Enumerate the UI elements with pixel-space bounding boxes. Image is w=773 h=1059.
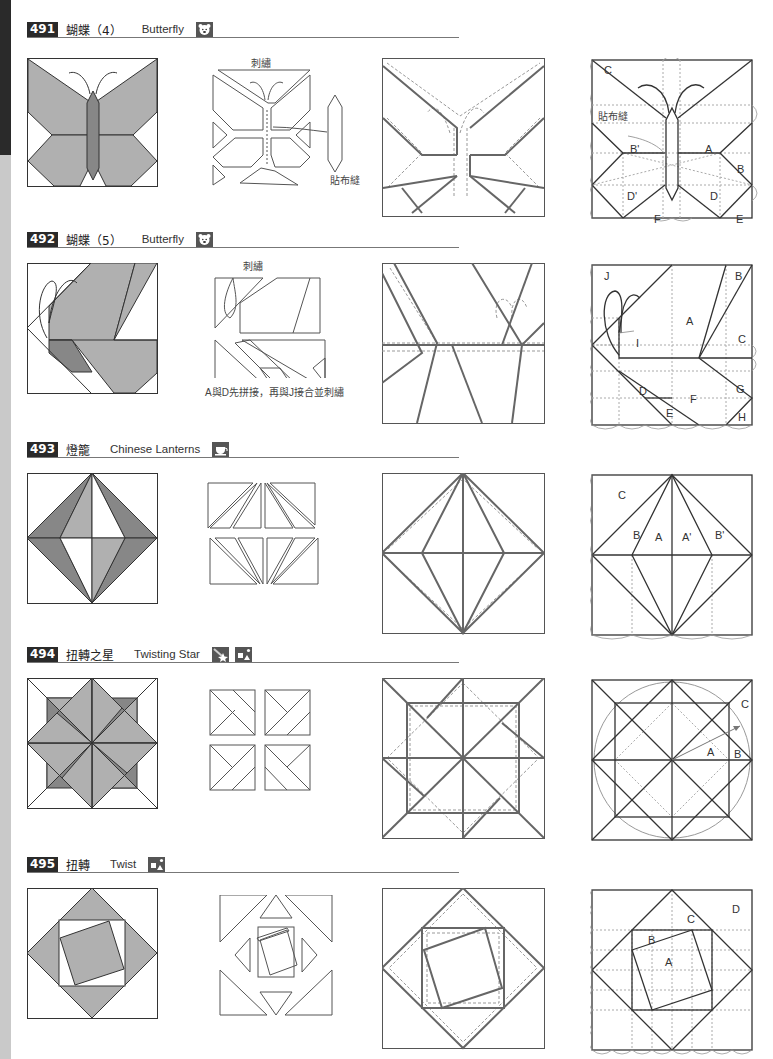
bear-icon <box>196 232 213 247</box>
piece-label: A <box>705 143 713 155</box>
pieces-diagram: 刺繡 貼布縫 <box>205 55 365 205</box>
piece-label: B <box>648 934 655 946</box>
cup-icon <box>212 442 229 457</box>
template-diagram: D C B A <box>590 888 762 1059</box>
pieces-diagram <box>205 480 325 600</box>
piece-label: C <box>618 489 626 501</box>
pattern-name-zh: 扭轉之星 <box>66 646 114 663</box>
pattern-number: 494 <box>27 647 58 662</box>
piece-label: B <box>735 270 742 282</box>
piece-label: J <box>604 270 610 282</box>
star-icon <box>212 647 229 662</box>
template-diagram: C B' A B D' D F E 貼布縫 <box>590 58 762 228</box>
applique-label: 貼布縫 <box>598 108 628 123</box>
piece-label: E <box>666 407 673 419</box>
page-edge-tab <box>0 0 11 1059</box>
applique-label: 貼布縫 <box>330 172 360 187</box>
finished-block-diagram <box>27 678 159 810</box>
piece-label: B' <box>715 529 724 541</box>
header-rule <box>27 457 459 458</box>
piece-label: C <box>738 333 746 345</box>
finished-block-diagram <box>27 888 159 1020</box>
piece-label: B <box>633 529 640 541</box>
piece-label: A <box>655 531 663 543</box>
embroidery-label: 刺繡 <box>243 258 263 273</box>
piece-label: F <box>654 213 661 225</box>
piece-label: B' <box>630 143 639 155</box>
piece-label: D <box>710 190 718 202</box>
instruction-text: A與D先拼接，再與J接合並刺繡 <box>205 384 344 399</box>
piece-label: A <box>686 315 694 327</box>
finished-block-diagram <box>27 473 159 605</box>
pattern-name-zh: 燈籠 <box>66 441 90 458</box>
pattern-name-zh: 蝴蝶（5） <box>66 231 122 248</box>
pattern-name-en: Twisting Star <box>134 648 200 660</box>
pattern-name-en: Butterfly <box>142 233 184 245</box>
piece-label: A <box>665 956 673 968</box>
shapes-icon <box>235 647 252 662</box>
cutting-diagram <box>382 473 547 638</box>
pattern-header: 491 蝴蝶（4） Butterfly <box>27 20 213 38</box>
pattern-header: 494 扭轉之星 Twisting Star <box>27 645 252 663</box>
pieces-diagram: 刺繡 A與D先拼接，再與J接合並刺繡 <box>205 258 365 378</box>
pattern-name-en: Twist <box>110 858 136 870</box>
cutting-diagram <box>382 263 547 428</box>
pattern-name-en: Butterfly <box>142 23 184 35</box>
piece-label: D <box>732 903 740 915</box>
cutting-diagram <box>382 58 547 220</box>
cutting-diagram <box>382 888 547 1053</box>
piece-label: E <box>736 213 743 225</box>
piece-label: B <box>737 163 744 175</box>
pattern-header: 493 燈籠 Chinese Lanterns <box>27 440 229 458</box>
embroidery-label: 刺繡 <box>251 55 271 70</box>
pattern-name-zh: 扭轉 <box>66 856 90 873</box>
header-rule <box>27 662 459 663</box>
pattern-number: 493 <box>27 442 58 457</box>
piece-label: F <box>690 393 697 405</box>
piece-label: A <box>707 746 715 758</box>
shapes-icon <box>148 857 165 872</box>
page-edge-tab-dark <box>0 0 11 155</box>
bear-icon <box>196 22 213 37</box>
header-rule <box>27 247 459 248</box>
header-rule <box>27 37 459 38</box>
pieces-diagram <box>205 685 325 805</box>
pattern-header: 492 蝴蝶（5） Butterfly <box>27 230 213 248</box>
piece-label: C <box>687 913 695 925</box>
pattern-name-zh: 蝴蝶（4） <box>66 21 122 38</box>
piece-label: B <box>734 748 741 760</box>
cutting-diagram <box>382 678 547 843</box>
finished-block-diagram <box>27 58 159 188</box>
header-rule <box>27 872 459 873</box>
piece-label: G <box>736 383 745 395</box>
template-diagram: J B A C I D F G E H <box>590 263 762 435</box>
template-diagram: C A B <box>590 678 762 850</box>
piece-label: I <box>636 337 639 349</box>
pattern-header: 495 扭轉 Twist <box>27 855 165 873</box>
piece-label: C <box>741 698 749 710</box>
finished-block-diagram <box>27 263 159 395</box>
template-diagram: C B A A' B' <box>590 473 762 645</box>
piece-label: H <box>738 411 746 423</box>
pattern-number: 495 <box>27 857 58 872</box>
piece-label: C <box>604 64 612 76</box>
pattern-name-en: Chinese Lanterns <box>110 443 200 455</box>
piece-label: A' <box>682 531 691 543</box>
pieces-diagram <box>205 895 340 1020</box>
piece-label: D' <box>627 190 637 202</box>
piece-label: D <box>639 385 647 397</box>
pattern-number: 492 <box>27 232 58 247</box>
pattern-number: 491 <box>27 22 58 37</box>
